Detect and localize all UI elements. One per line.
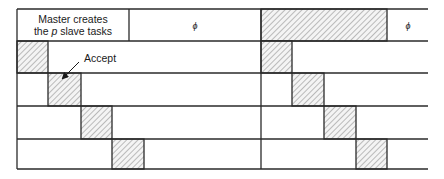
master-busy-block-2 <box>261 9 387 41</box>
idle-symbol-right: ϕ <box>405 21 410 31</box>
slave-4-accept-block-left <box>112 139 144 169</box>
master-box-line1: Master creates <box>38 13 107 25</box>
master-box-line2: the p slave tasks <box>34 25 112 37</box>
slave-1-accept-block-right <box>261 41 292 73</box>
slave-2-accept-block-left <box>48 73 81 106</box>
slave-1-accept-block-left <box>17 41 48 73</box>
master-slave-timing-diagram: Master creates the p slave tasks ϕ ϕ Acc… <box>0 0 444 179</box>
slave-4-accept-block-right <box>356 139 387 169</box>
slave-2-accept-block-right <box>292 73 324 106</box>
slave-3-accept-block-left <box>81 106 112 139</box>
slave-3-accept-block-right <box>324 106 356 139</box>
idle-symbol-left: ϕ <box>192 21 197 31</box>
accept-label: Accept <box>84 52 116 64</box>
